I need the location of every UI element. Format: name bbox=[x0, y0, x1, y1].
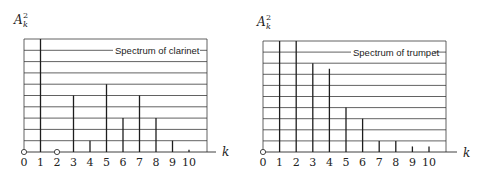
trumpet-spectrum-chart: Spectrum of trumpet012345678910kA2k bbox=[243, 0, 486, 174]
x-tick-label: 7 bbox=[376, 156, 383, 169]
x-axis-label: k bbox=[222, 145, 229, 159]
svg-text:k: k bbox=[266, 22, 271, 31]
x-tick-label: 0 bbox=[21, 156, 28, 169]
chart-title: Spectrum of clarinet bbox=[115, 45, 200, 56]
x-tick-label: 9 bbox=[169, 156, 176, 169]
x-tick-label: 10 bbox=[182, 156, 196, 169]
x-tick-label: 4 bbox=[87, 156, 94, 169]
x-tick-label: 8 bbox=[392, 156, 399, 169]
svg-text:2: 2 bbox=[266, 13, 271, 22]
x-tick-label: 2 bbox=[293, 156, 300, 169]
zero-marker-k0 bbox=[260, 149, 265, 154]
trumpet-spectrum-plot: Spectrum of trumpet012345678910kA2k bbox=[243, 0, 486, 174]
x-tick-label: 4 bbox=[326, 156, 333, 169]
zero-marker-k2 bbox=[54, 149, 59, 154]
zero-marker-k0 bbox=[21, 149, 26, 154]
x-tick-label: 5 bbox=[103, 156, 110, 169]
x-tick-label: 7 bbox=[136, 156, 143, 169]
x-tick-label: 6 bbox=[120, 156, 127, 169]
x-tick-label: 3 bbox=[70, 156, 77, 169]
x-tick-label: 1 bbox=[276, 156, 283, 169]
x-tick-label: 5 bbox=[343, 156, 350, 169]
clarinet-spectrum-chart: Spectrum of clarinet012345678910kA2k bbox=[0, 0, 243, 174]
x-tick-label: 9 bbox=[409, 156, 416, 169]
x-tick-label: 0 bbox=[260, 156, 267, 169]
x-tick-label: 1 bbox=[37, 156, 44, 169]
svg-text:A: A bbox=[13, 13, 23, 27]
svg-text:A: A bbox=[256, 15, 266, 29]
x-tick-label: 6 bbox=[359, 156, 366, 169]
y-axis-label: A2k bbox=[256, 13, 271, 31]
y-axis-label: A2k bbox=[13, 11, 28, 29]
x-tick-label: 2 bbox=[54, 156, 61, 169]
x-tick-label: 8 bbox=[153, 156, 160, 169]
svg-text:k: k bbox=[23, 20, 28, 29]
clarinet-spectrum-plot: Spectrum of clarinet012345678910kA2k bbox=[0, 0, 243, 174]
x-axis-label: k bbox=[463, 146, 470, 160]
x-tick-label: 3 bbox=[309, 156, 316, 169]
chart-title: Spectrum of trumpet bbox=[353, 47, 439, 58]
x-tick-label: 10 bbox=[422, 156, 436, 169]
svg-text:2: 2 bbox=[23, 11, 28, 20]
